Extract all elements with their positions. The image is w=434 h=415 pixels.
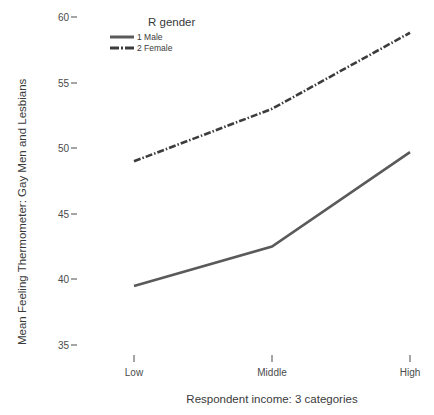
series-group bbox=[134, 33, 410, 286]
y-axis-ticks: 60 55 50 45 40 35 bbox=[58, 12, 77, 351]
y-axis-title: Mean Feeling Thermometer: Gay Men and Le… bbox=[16, 78, 28, 345]
x-tick-label: High bbox=[400, 367, 421, 378]
legend-label-female: 2 Female bbox=[137, 43, 173, 53]
line-chart: Mean Feeling Thermometer: Gay Men and Le… bbox=[0, 0, 434, 415]
legend-label-male: 1 Male bbox=[137, 32, 163, 42]
y-tick-label: 50 bbox=[58, 143, 70, 154]
y-tick-label: 45 bbox=[58, 209, 70, 220]
series-line-male bbox=[134, 152, 410, 286]
chart-container: Mean Feeling Thermometer: Gay Men and Le… bbox=[0, 0, 434, 415]
series-line-female bbox=[134, 33, 410, 162]
y-tick-label: 40 bbox=[58, 274, 70, 285]
x-axis-ticks: Low Middle High bbox=[125, 355, 420, 378]
x-tick-label: Middle bbox=[257, 367, 287, 378]
legend-title: R gender bbox=[148, 16, 195, 28]
y-tick-label: 60 bbox=[58, 12, 70, 23]
y-tick-label: 35 bbox=[58, 340, 70, 351]
x-axis-title: Respondent income: 3 categories bbox=[186, 393, 358, 405]
y-tick-label: 55 bbox=[58, 78, 70, 89]
x-tick-label: Low bbox=[125, 367, 144, 378]
legend: R gender 1 Male 2 Female bbox=[110, 16, 195, 53]
